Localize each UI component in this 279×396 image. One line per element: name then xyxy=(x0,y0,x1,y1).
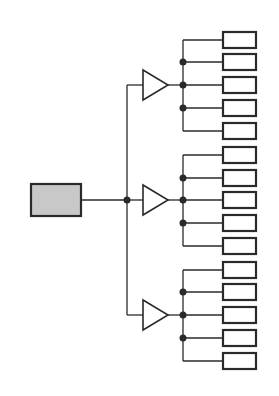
group-1-sink-4 xyxy=(223,100,256,116)
group-3-bus-dot-2 xyxy=(180,289,187,296)
group-1-bus-dot-4 xyxy=(180,105,187,112)
group-2-sink-2 xyxy=(223,170,256,186)
group-2-sink-3 xyxy=(223,192,256,208)
group-1-sink-3 xyxy=(223,77,256,93)
group-2-sink-5 xyxy=(223,238,256,254)
group-1-sink-5 xyxy=(223,123,256,139)
group-1-sink-1 xyxy=(223,32,256,48)
group-2-bus-dot-3 xyxy=(180,197,187,204)
group-3-bus-dot-4 xyxy=(180,335,187,342)
group-2-sink-4 xyxy=(223,215,256,231)
group-3-sink-2 xyxy=(223,284,256,300)
clock-tree-diagram xyxy=(0,0,279,396)
group-1-bus-dot-2 xyxy=(180,59,187,66)
group-3-sink-4 xyxy=(223,330,256,346)
group-3-buffer-icon xyxy=(143,300,168,330)
diagram-canvas xyxy=(0,0,279,396)
group-2-sink-1 xyxy=(223,147,256,163)
group-3-sink-3 xyxy=(223,307,256,323)
group-3-sink-1 xyxy=(223,262,256,278)
group-2-buffer-icon xyxy=(143,185,168,215)
group-1-bus-dot-3 xyxy=(180,82,187,89)
group-3-bus-dot-3 xyxy=(180,312,187,319)
group-3-sink-5 xyxy=(223,353,256,369)
source-block xyxy=(31,184,81,216)
group-2-bus-dot-4 xyxy=(180,220,187,227)
group-1-sink-2 xyxy=(223,54,256,70)
group-1-buffer-icon xyxy=(143,70,168,100)
group-2-bus-dot-2 xyxy=(180,175,187,182)
